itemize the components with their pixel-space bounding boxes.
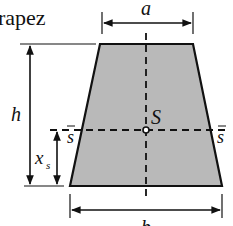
title-text: rapez	[0, 5, 46, 30]
trapezoid-diagram: rapez a b h x s s s S	[0, 0, 233, 226]
label-axis-left: s	[67, 127, 74, 147]
label-axis-right: s	[217, 127, 224, 147]
trapezoid-shape	[70, 44, 222, 186]
label-xs-sub: s	[46, 159, 50, 171]
label-xs: x	[34, 147, 44, 168]
label-centroid: S	[151, 106, 161, 128]
centroid-point	[143, 127, 149, 133]
label-b: b	[141, 216, 151, 226]
label-h: h	[11, 103, 21, 125]
label-a: a	[141, 0, 151, 19]
